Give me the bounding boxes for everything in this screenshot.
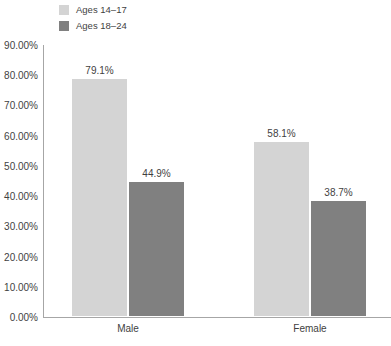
legend-label-ages-14-17: Ages 14–17 <box>76 4 127 16</box>
bar-value-label: 79.1% <box>85 65 113 76</box>
y-axis-tick-label: 50.00% <box>4 160 38 171</box>
x-axis-line <box>43 317 391 318</box>
bar-male-series-2[interactable]: 44.9% <box>128 181 185 317</box>
clipped-caption <box>0 340 391 346</box>
chart-legend: Ages 14–17 Ages 18–24 <box>58 3 127 32</box>
bar-value-label: 38.7% <box>324 187 352 198</box>
y-axis-line <box>43 45 44 318</box>
bar-chart: Ages 14–17 Ages 18–24 90.00%80.00%70.00%… <box>0 0 391 346</box>
legend-item-ages-18-24[interactable]: Ages 18–24 <box>58 19 127 32</box>
x-axis-tick-label-male: Male <box>117 323 139 334</box>
bar-female-series-2[interactable]: 38.7% <box>310 200 367 317</box>
plot-area: 90.00%80.00%70.00%60.00%50.00%40.00%30.0… <box>43 45 389 317</box>
y-axis-tick-label: 90.00% <box>4 40 38 51</box>
legend-swatch-ages-14-17 <box>58 4 70 16</box>
legend-swatch-ages-18-24 <box>58 20 70 32</box>
y-axis-tick-label: 70.00% <box>4 100 38 111</box>
y-axis-tick-label: 80.00% <box>4 70 38 81</box>
x-axis-tick-label-female: Female <box>293 323 326 334</box>
y-axis-tick-label: 20.00% <box>4 251 38 262</box>
legend-item-ages-14-17[interactable]: Ages 14–17 <box>58 3 127 16</box>
y-axis-tick-label: 60.00% <box>4 130 38 141</box>
y-axis-tick-label: 0.00% <box>10 312 38 323</box>
legend-label-ages-18-24: Ages 18–24 <box>76 20 127 32</box>
y-axis-tick-label: 40.00% <box>4 191 38 202</box>
y-axis-tick-label: 30.00% <box>4 221 38 232</box>
bar-value-label: 44.9% <box>142 168 170 179</box>
y-axis-tick-label: 10.00% <box>4 281 38 292</box>
bar-female-series-1[interactable]: 58.1% <box>253 141 310 317</box>
bar-value-label: 58.1% <box>267 128 295 139</box>
bar-male-series-1[interactable]: 79.1% <box>71 78 128 317</box>
